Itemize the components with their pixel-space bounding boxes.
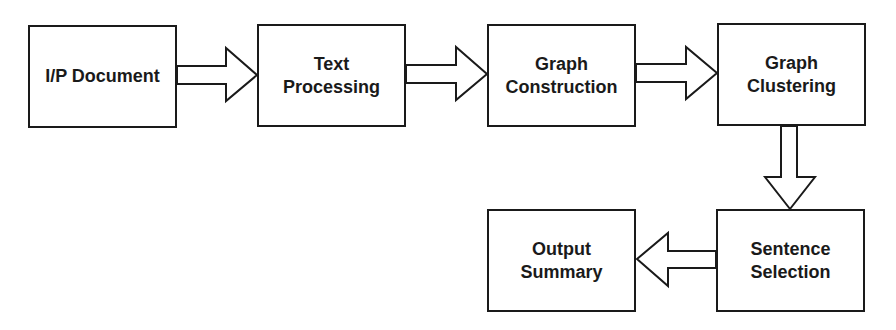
node-label: I/P Document [45,65,160,88]
node-label: Output Summary [520,238,602,284]
node-input-document: I/P Document [28,25,177,128]
arrow-left-icon [637,233,716,286]
node-graph-clustering: Graph Clustering [717,23,866,126]
node-label: Graph Clustering [747,52,836,98]
arrow-right-icon [406,47,487,100]
node-graph-construction: Graph Construction [487,24,636,127]
arrow-down-icon [765,126,815,209]
arrow-right-icon [177,48,257,101]
node-output-summary: Output Summary [487,209,636,312]
node-label: Graph Construction [506,53,618,99]
node-sentence-selection: Sentence Selection [716,209,865,312]
node-text-processing: Text Processing [257,24,406,127]
node-label: Sentence Selection [750,238,830,284]
node-label: Text Processing [283,53,380,99]
flowchart-canvas: I/P Document Text Processing Graph Const… [0,0,896,330]
arrow-right-icon [636,47,717,99]
